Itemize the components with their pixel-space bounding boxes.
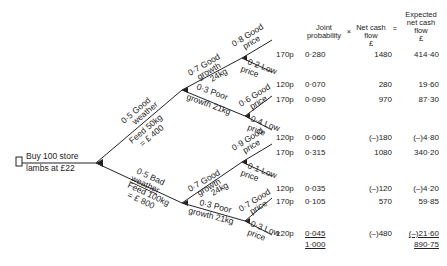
joint-probability: 0·035 bbox=[305, 184, 325, 193]
expected-net-cash-flow: 19·60 bbox=[395, 80, 439, 89]
expected-net-cash-flow: (–)4·80 bbox=[395, 133, 439, 142]
chance-node-price-3 bbox=[242, 159, 247, 165]
expected-net-cash-flow: (–)4·20 bbox=[395, 184, 439, 193]
header-net-cash-flow: Net cash flow £ bbox=[350, 16, 392, 48]
joint-probability: 0·105 bbox=[305, 197, 325, 206]
expected-net-cash-flow: 414·40 bbox=[395, 50, 439, 59]
header-joint-probability: Joint probability bbox=[300, 24, 348, 40]
root-label-2: lambs at £22 bbox=[26, 163, 75, 173]
joint-probability: 0·090 bbox=[305, 95, 325, 104]
total-expected-net-cash-flow: 890·75 bbox=[395, 240, 439, 249]
expected-net-cash-flow: 87·30 bbox=[395, 95, 439, 104]
header-text: £ bbox=[350, 40, 392, 48]
net-cash-flow: 1080 bbox=[352, 148, 392, 157]
header-expected-net-cash-flow: Expected net cash flow £ bbox=[398, 11, 444, 43]
net-cash-flow: 570 bbox=[352, 197, 392, 206]
price-value: 120p bbox=[276, 80, 294, 89]
root-label-1: Buy 100 store bbox=[26, 151, 79, 161]
price-value: 120p bbox=[276, 184, 294, 193]
price-value: 120p bbox=[276, 229, 294, 238]
net-cash-flow: 280 bbox=[352, 80, 392, 89]
net-cash-flow: 970 bbox=[352, 95, 392, 104]
net-cash-flow: (–)120 bbox=[352, 184, 392, 193]
price-value: 170p bbox=[276, 148, 294, 157]
price-value: 170p bbox=[276, 95, 294, 104]
joint-probability: 0·070 bbox=[305, 80, 325, 89]
joint-probability: 0·045 bbox=[305, 229, 325, 238]
price-value: 170p bbox=[276, 197, 294, 206]
decision-node bbox=[16, 157, 22, 166]
expected-net-cash-flow: 340·20 bbox=[395, 148, 439, 157]
net-cash-flow: 1480 bbox=[352, 50, 392, 59]
joint-probability: 0·060 bbox=[305, 133, 325, 142]
net-cash-flow: (–)480 bbox=[352, 229, 392, 238]
price-value: 120p bbox=[276, 133, 294, 142]
joint-probability: 0·280 bbox=[305, 50, 325, 59]
joint-probability: 0·315 bbox=[305, 148, 325, 157]
expected-net-cash-flow: (–)21·60 bbox=[395, 229, 439, 238]
total-joint-probability: 1·000 bbox=[305, 240, 325, 249]
price-value: 170p bbox=[276, 50, 294, 59]
chance-node-price-1 bbox=[242, 55, 247, 61]
header-text: probability bbox=[300, 32, 348, 40]
net-cash-flow: (–)180 bbox=[352, 133, 392, 142]
header-text: £ bbox=[398, 35, 444, 43]
expected-net-cash-flow: 59·85 bbox=[395, 197, 439, 206]
